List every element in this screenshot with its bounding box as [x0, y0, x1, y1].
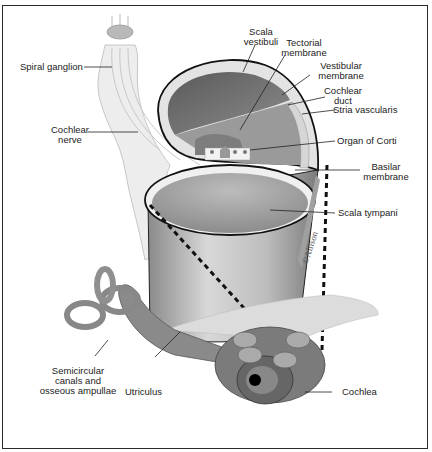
label-vestibular-membrane: Vestibular membrane [313, 61, 369, 81]
label-tectorial-membrane: Tectorial membrane [276, 38, 332, 58]
label-cochlear-duct: Cochlear duct [318, 86, 368, 106]
label-basilar-membrane: Basilar membrane [358, 162, 414, 182]
label-utriculus: Utriculus [125, 387, 162, 397]
label-cochlea: Cochlea [342, 387, 377, 397]
label-stria-vascularis: Stria vascularis [333, 105, 397, 115]
label-spiral-ganglion: Spiral ganglion [20, 62, 83, 72]
label-cochlear-nerve: Cochlear nerve [50, 125, 90, 145]
label-semicircular-canals: Semicircular canals and osseous ampullae [38, 366, 118, 396]
label-scala-tympani: Scala tympani [338, 208, 398, 218]
label-organ-of-corti: Organ of Corti [337, 136, 397, 146]
